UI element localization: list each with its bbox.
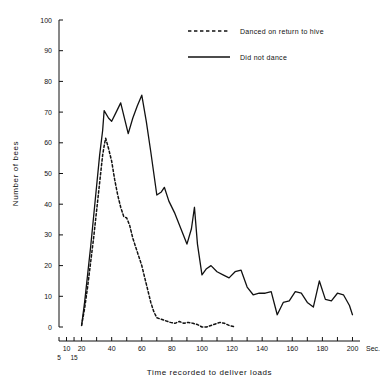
x-tick-label: 140 bbox=[256, 345, 268, 352]
y-tick-label: 90 bbox=[44, 47, 52, 54]
x-tick-label: 100 bbox=[196, 345, 208, 352]
y-tick-label: 100 bbox=[40, 17, 52, 24]
x-tick-label: 200 bbox=[347, 345, 359, 352]
x-tick-label: 40 bbox=[108, 345, 116, 352]
y-tick-label: 60 bbox=[44, 139, 52, 146]
y-tick-label: 50 bbox=[44, 170, 52, 177]
x-axis-unit: Sec. bbox=[366, 345, 380, 352]
y-axis-title: Number of bees bbox=[11, 141, 20, 206]
legend-label-2: Did not dance bbox=[240, 54, 287, 61]
line-chart: 0102030405060708090100Number of bees1020… bbox=[0, 0, 390, 384]
chart-figure: 0102030405060708090100Number of bees1020… bbox=[0, 0, 390, 384]
y-tick-label: 10 bbox=[44, 293, 52, 300]
x-tick-label: 180 bbox=[317, 345, 329, 352]
x-tick-label: 120 bbox=[226, 345, 238, 352]
x-axis-title: Time recorded to deliver loads bbox=[147, 368, 272, 377]
y-tick-label: 30 bbox=[44, 231, 52, 238]
y-tick-label: 20 bbox=[44, 262, 52, 269]
y-tick-label: 70 bbox=[44, 109, 52, 116]
x-tick-label: 80 bbox=[168, 345, 176, 352]
y-tick-label: 40 bbox=[44, 201, 52, 208]
x-tick-label: 60 bbox=[138, 345, 146, 352]
x-tick-label-lower: 5 bbox=[57, 354, 61, 361]
x-tick-label: 160 bbox=[286, 345, 298, 352]
y-tick-label: 80 bbox=[44, 78, 52, 85]
x-tick-label: 10 bbox=[63, 345, 71, 352]
series-line-1 bbox=[82, 138, 236, 327]
x-tick-label-lower: 15 bbox=[70, 354, 78, 361]
legend-label-1: Danced on return to hive bbox=[240, 28, 324, 35]
y-tick-label: 0 bbox=[48, 324, 52, 331]
x-tick-label: 20 bbox=[78, 345, 86, 352]
